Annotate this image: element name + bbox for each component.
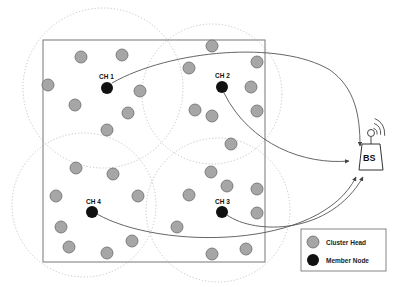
antenna-icon	[368, 130, 375, 137]
member-node	[50, 190, 62, 202]
member-node	[42, 79, 54, 91]
legend-label-member-node: Member Node	[326, 257, 369, 264]
cluster-head-2	[216, 81, 228, 93]
member-node	[122, 107, 134, 119]
path-ch3-to-bs	[227, 177, 363, 227]
member-node	[251, 105, 263, 117]
member-node	[251, 56, 263, 68]
member-node	[70, 162, 82, 174]
member-node	[206, 40, 218, 52]
cluster-head-4	[86, 206, 98, 218]
cluster-head-1-label: CH 1	[99, 73, 114, 80]
cluster-head-3	[216, 206, 228, 218]
cluster-head-3-label: CH 3	[215, 198, 230, 205]
legend-swatch-gray	[307, 236, 319, 248]
legend	[301, 229, 386, 271]
deployment-field	[43, 40, 265, 262]
member-node	[55, 221, 67, 233]
member-node	[221, 180, 233, 192]
cluster-head-4-label: CH 4	[86, 198, 101, 205]
cluster-heads	[86, 81, 228, 218]
member-node	[245, 81, 257, 93]
member-node	[101, 124, 113, 136]
wsn-cluster-diagram: CH 1 CH 2 CH 3 CH 4 BS Cluster Head Memb…	[0, 0, 398, 287]
member-node	[126, 235, 138, 247]
cluster-boundaries	[12, 8, 290, 282]
cluster-head-2-label: CH 2	[215, 72, 230, 79]
member-node	[206, 110, 218, 122]
member-node	[171, 221, 183, 233]
base-station-label: BS	[363, 153, 376, 163]
member-node	[69, 99, 81, 111]
member-node	[116, 49, 128, 61]
path-ch2-to-bs	[224, 93, 349, 161]
member-node	[183, 189, 195, 201]
cluster-boundary-4	[12, 133, 156, 277]
member-node	[225, 138, 237, 150]
member-node	[205, 166, 217, 178]
path-ch1-to-bs	[112, 52, 360, 146]
member-node	[134, 85, 146, 97]
member-node	[101, 247, 113, 259]
member-node	[251, 183, 263, 195]
member-node	[75, 51, 87, 63]
member-node	[107, 168, 119, 180]
member-node	[183, 62, 195, 74]
legend-swatch-black	[307, 254, 319, 266]
member-node	[189, 104, 201, 116]
member-node	[251, 207, 263, 219]
member-node	[132, 190, 144, 202]
legend-label-cluster-head: Cluster Head	[326, 239, 366, 246]
cluster-head-1	[101, 82, 113, 94]
member-node	[240, 243, 252, 255]
member-node	[63, 241, 75, 253]
member-node	[206, 248, 218, 260]
